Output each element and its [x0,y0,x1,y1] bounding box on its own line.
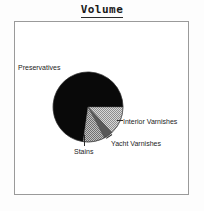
page-title: Volume [0,3,204,16]
leader-line-stains [84,135,85,146]
chart-screenshot: Volume [0,0,204,211]
page-title-text: Volume [81,3,124,18]
pie-label-stains: Stains [74,147,93,156]
pie-label-interior-varnishes: Interior Varnishes [123,117,177,126]
plot-frame [14,21,189,195]
pie-label-preservatives: Preservatives [18,63,60,72]
pie-label-yacht-varnishes: Yacht Varnishes [111,139,161,148]
